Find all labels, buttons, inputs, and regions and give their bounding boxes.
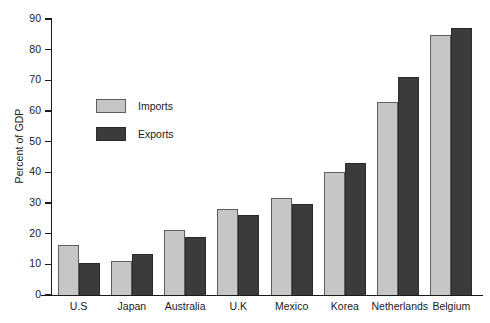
legend-item-exports: Exports xyxy=(96,127,174,141)
plot-area xyxy=(52,19,478,295)
x-label-belgium: Belgium xyxy=(425,300,478,312)
x-label-mexico: Mexico xyxy=(265,300,318,312)
y-tick-label-60: 60 xyxy=(0,105,41,116)
bar-imports-uk xyxy=(217,209,238,295)
y-tick-label-80: 80 xyxy=(0,44,41,55)
bar-group xyxy=(377,19,419,295)
legend-swatch-imports-icon xyxy=(96,99,126,113)
y-tick-label-70: 70 xyxy=(0,74,41,85)
y-tick-80 xyxy=(45,49,52,50)
x-label-uk: U.K xyxy=(212,300,265,312)
legend: Imports Exports xyxy=(96,99,174,155)
bar-group xyxy=(111,19,153,295)
bar-imports-mexico xyxy=(271,198,292,295)
bar-exports-mexico xyxy=(292,204,313,295)
bar-exports-korea xyxy=(345,163,366,295)
y-tick-0 xyxy=(45,294,52,295)
y-tick-90 xyxy=(45,18,52,19)
bar-exports-us xyxy=(79,263,100,295)
y-tick-label-30: 30 xyxy=(0,197,41,208)
bar-group xyxy=(271,19,313,295)
legend-swatch-exports-icon xyxy=(96,127,126,141)
y-tick-60 xyxy=(45,110,52,111)
y-tick-label-40: 40 xyxy=(0,166,41,177)
bar-group xyxy=(58,19,100,295)
bar-exports-belgium xyxy=(451,28,472,295)
legend-label-exports: Exports xyxy=(138,128,174,140)
bar-imports-australia xyxy=(164,230,185,295)
y-tick-label-10: 10 xyxy=(0,258,41,269)
bar-imports-us xyxy=(58,245,79,295)
bar-group xyxy=(430,19,472,295)
bar-exports-japan xyxy=(132,254,153,295)
bar-group xyxy=(324,19,366,295)
bar-imports-netherlands xyxy=(377,102,398,295)
bar-group xyxy=(217,19,259,295)
x-label-netherlands: Netherlands xyxy=(372,300,425,312)
bar-imports-korea xyxy=(324,172,345,295)
y-tick-50 xyxy=(45,141,52,142)
x-label-korea: Korea xyxy=(318,300,371,312)
y-tick-label-90: 90 xyxy=(0,13,41,24)
x-label-japan: Japan xyxy=(105,300,158,312)
y-tick-20 xyxy=(45,233,52,234)
bar-imports-japan xyxy=(111,261,132,295)
x-label-australia: Australia xyxy=(159,300,212,312)
y-tick-30 xyxy=(45,202,52,203)
y-tick-40 xyxy=(45,172,52,173)
legend-item-imports: Imports xyxy=(96,99,174,113)
bar-imports-belgium xyxy=(430,35,451,295)
y-tick-label-50: 50 xyxy=(0,136,41,147)
y-tick-10 xyxy=(45,264,52,265)
y-tick-label-20: 20 xyxy=(0,228,41,239)
bar-exports-netherlands xyxy=(398,77,419,295)
x-label-us: U.S xyxy=(52,300,105,312)
bar-exports-uk xyxy=(238,215,259,295)
bar-exports-australia xyxy=(185,237,206,295)
y-tick-70 xyxy=(45,80,52,81)
bar-chart: Percent of GDP 0102030405060708090 U.SJa… xyxy=(0,0,490,323)
y-tick-label-0: 0 xyxy=(0,289,41,300)
legend-label-imports: Imports xyxy=(138,100,173,112)
bar-group xyxy=(164,19,206,295)
